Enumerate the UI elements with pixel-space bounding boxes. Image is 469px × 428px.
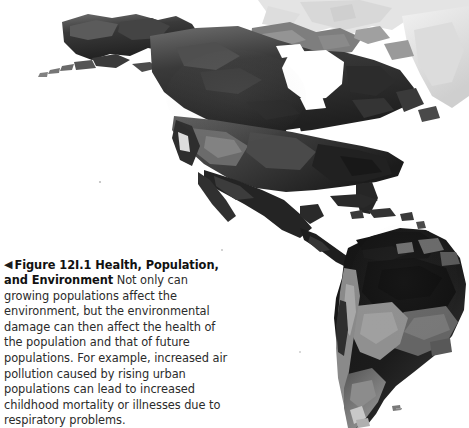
figure-label: Figure 12I.1	[14, 258, 91, 272]
figure-caption: ◀Figure 12I.1 Health, Population, and En…	[4, 257, 228, 428]
figure-page: ◀Figure 12I.1 Health, Population, and En…	[0, 0, 469, 428]
figure-body-text: Not only can growing populations affect …	[4, 273, 227, 427]
left-triangle-icon: ◀	[4, 258, 12, 271]
